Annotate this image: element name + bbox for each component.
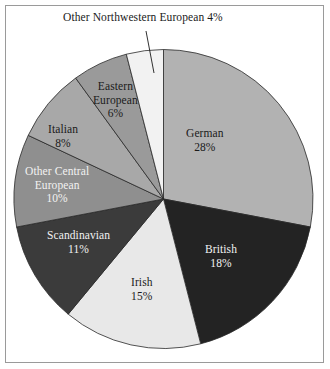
slice-label-scandinavian-pct: 11% [47,243,110,257]
slice-callout-label-other-northwestern-european: Other Northwestern European 4% [63,11,223,23]
slice-label-other-central-european-text: Other Central [25,165,89,177]
slice-label-irish-text: Irish [131,276,153,288]
slice-label-italian-pct: 8% [48,137,78,151]
slice-label-british: British 18% [205,243,237,270]
slice-label-german-text: German [186,127,224,139]
slice-label-british-text: British [205,243,237,255]
slice-label-eastern-european-text2: European [93,94,138,108]
slice-label-other-central-european-pct: 10% [25,192,89,206]
slice-label-italian: Italian 8% [48,123,78,150]
slice-label-british-pct: 18% [205,257,237,271]
slice-label-scandinavian: Scandinavian 11% [47,229,110,256]
pie-chart-figure: Other Northwestern European 4% German 28… [0,0,330,369]
slice-label-irish: Irish 15% [131,276,153,303]
slice-label-italian-text: Italian [48,123,78,135]
slice-label-german-pct: 28% [186,141,224,155]
slice-label-eastern-european: Eastern European 6% [93,80,138,121]
slice-label-german: German 28% [186,127,224,154]
slice-label-eastern-european-pct: 6% [93,107,138,121]
slice-label-scandinavian-text: Scandinavian [47,229,110,241]
slice-label-irish-pct: 15% [131,290,153,304]
slice-label-eastern-european-text: Eastern [98,80,133,92]
slice-label-other-central-european: Other Central European 10% [25,165,89,206]
slice-label-other-central-european-text2: European [25,179,89,193]
